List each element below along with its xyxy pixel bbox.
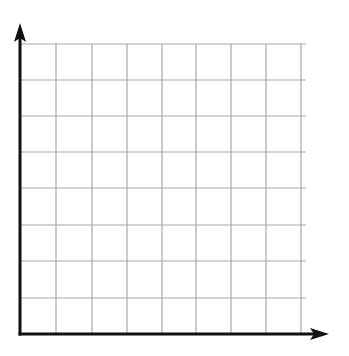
axes bbox=[14, 23, 329, 340]
grid-vertical-lines bbox=[56, 44, 301, 334]
coordinate-grid bbox=[0, 0, 349, 356]
grid-horizontal-lines bbox=[20, 44, 306, 298]
